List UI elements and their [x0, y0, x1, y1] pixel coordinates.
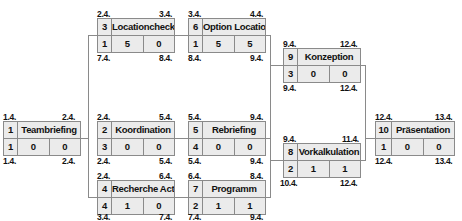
task-duration: 3 — [284, 66, 298, 83]
task-id: 3 — [98, 19, 112, 36]
latest-finish: 8.4. — [159, 54, 172, 63]
task-total-float: 1 — [112, 198, 144, 215]
task-free-float: 5 — [234, 36, 266, 53]
latest-finish: 12.4. — [340, 84, 357, 93]
task-id: 2 — [98, 122, 112, 139]
task-name: Teambriefing — [18, 122, 81, 139]
task-id: 7 — [189, 181, 203, 198]
task-node-vorkalkulation[interactable]: 8 Vorkalkulation 2 1 1 — [283, 143, 361, 177]
connector-line — [270, 35, 271, 198]
latest-finish: 9.4. — [250, 213, 263, 221]
task-total-float: 0 — [18, 139, 50, 156]
task-id: 4 — [98, 181, 112, 198]
latest-start: 10.4. — [280, 179, 297, 188]
task-node-teambriefing[interactable]: 1 Teambriefing 1 0 0 — [3, 121, 81, 155]
task-name: Präsentation — [392, 122, 455, 139]
latest-start: 7.4. — [188, 213, 201, 221]
task-node-programm[interactable]: 7 Programm 2 1 1 — [188, 180, 266, 214]
latest-finish: 9.4. — [250, 157, 263, 166]
connector-line — [175, 197, 188, 198]
task-free-float: 0 — [49, 139, 81, 156]
task-duration: 3 — [98, 139, 112, 156]
task-node-rebriefing[interactable]: 5 Rebriefing 4 0 0 — [188, 121, 266, 155]
task-free-float: 0 — [234, 139, 266, 156]
latest-start: 7.4. — [97, 54, 110, 63]
latest-finish: 9.4. — [250, 54, 263, 63]
task-total-float: 1 — [298, 161, 330, 178]
task-name: Programm — [203, 181, 266, 198]
task-total-float: 1 — [203, 198, 235, 215]
latest-start: 3.4. — [97, 213, 110, 221]
latest-finish: 5.4. — [159, 157, 172, 166]
task-free-float: 0 — [423, 139, 455, 156]
latest-finish: 13.4. — [435, 157, 452, 166]
task-name: Locationcheck — [112, 19, 175, 36]
task-duration: 4 — [189, 139, 203, 156]
connector-line — [175, 35, 188, 36]
connector-line — [365, 65, 366, 161]
latest-finish: 7.4. — [159, 213, 172, 221]
task-id: 6 — [189, 19, 203, 36]
task-name: Option Location — [203, 19, 266, 36]
task-node-recherche-acts[interactable]: 4 Recherche Acts 4 1 0 — [97, 180, 175, 214]
latest-start: 8.4. — [188, 54, 201, 63]
task-id: 8 — [284, 144, 298, 161]
task-free-float: 1 — [329, 161, 361, 178]
task-node-konzeption[interactable]: 9 Konzeption 3 0 0 — [283, 48, 361, 82]
task-id: 10 — [376, 122, 392, 139]
task-node-praesentation[interactable]: 10 Präsentation 1 0 0 — [375, 121, 455, 155]
task-duration: 1 — [98, 36, 112, 53]
task-node-koordination[interactable]: 2 Koordination 3 0 0 — [97, 121, 175, 155]
latest-start: 5.4. — [188, 157, 201, 166]
task-duration: 2 — [284, 161, 298, 178]
latest-start: 12.4. — [375, 157, 392, 166]
latest-start: 1.4. — [3, 157, 16, 166]
task-name: Recherche Acts — [112, 181, 175, 198]
task-node-locationcheck[interactable]: 3 Locationcheck 1 5 0 — [97, 18, 175, 52]
task-node-option-location[interactable]: 6 Option Location 1 5 5 — [188, 18, 266, 52]
task-duration: 1 — [189, 36, 203, 53]
task-total-float: 0 — [203, 139, 235, 156]
task-name: Koordination — [112, 122, 175, 139]
connector-line — [88, 197, 97, 198]
connector-line — [175, 138, 188, 139]
task-name: Rebriefing — [203, 122, 266, 139]
task-id: 9 — [284, 49, 298, 66]
latest-start: 9.4. — [283, 84, 296, 93]
task-id: 1 — [4, 122, 18, 139]
task-duration: 1 — [4, 139, 18, 156]
connector-line — [270, 65, 283, 66]
task-id: 5 — [189, 122, 203, 139]
task-free-float: 0 — [143, 36, 175, 53]
task-total-float: 0 — [392, 139, 424, 156]
task-name: Konzeption — [298, 49, 361, 66]
latest-finish: 12.4. — [340, 179, 357, 188]
connector-line — [270, 160, 283, 161]
connector-line — [88, 35, 97, 36]
latest-start: 2.4. — [97, 157, 110, 166]
task-total-float: 5 — [112, 36, 144, 53]
task-name: Vorkalkulation — [298, 144, 361, 161]
task-duration: 1 — [376, 139, 392, 156]
task-total-float: 0 — [298, 66, 330, 83]
connector-line — [365, 138, 375, 139]
task-free-float: 0 — [143, 139, 175, 156]
task-total-float: 5 — [203, 36, 235, 53]
connector-line — [88, 35, 89, 198]
latest-finish: 2.4. — [62, 157, 75, 166]
task-total-float: 0 — [112, 139, 144, 156]
task-free-float: 0 — [329, 66, 361, 83]
